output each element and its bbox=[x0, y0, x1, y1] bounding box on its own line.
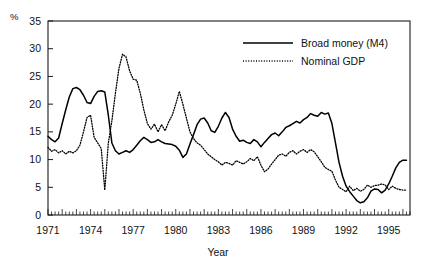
x-axis-minor-ticks bbox=[48, 209, 410, 215]
y-axis-unit-label: % bbox=[10, 11, 19, 22]
series-line-broad-money bbox=[48, 88, 406, 203]
x-tick-label: 1992 bbox=[334, 224, 358, 236]
y-axis-ticks: 05101520253035 bbox=[29, 15, 53, 221]
x-tick-label: 1989 bbox=[292, 224, 316, 236]
y-tick-label: 10 bbox=[29, 153, 41, 165]
x-tick-label: 1980 bbox=[164, 224, 188, 236]
series-line-nominal-gdp bbox=[48, 54, 406, 191]
chart-figure: 05101520253035 1971197419771980198319861… bbox=[0, 0, 429, 272]
x-tick-label: 1995 bbox=[377, 224, 401, 236]
x-tick-label: 1986 bbox=[249, 224, 273, 236]
legend-label-nominal-gdp: Nominal GDP bbox=[301, 55, 365, 67]
x-tick-label: 1983 bbox=[207, 224, 231, 236]
y-tick-label: 30 bbox=[29, 42, 41, 54]
x-tick-label: 1977 bbox=[121, 224, 145, 236]
y-tick-label: 20 bbox=[29, 98, 41, 110]
x-axis-title: Year bbox=[207, 246, 229, 258]
line-chart-canvas: 05101520253035 1971197419771980198319861… bbox=[0, 0, 429, 272]
y-tick-label: 0 bbox=[35, 209, 41, 221]
x-axis-tick-labels: 197119741977198019831986198919921995 bbox=[36, 224, 400, 236]
y-tick-label: 5 bbox=[35, 181, 41, 193]
y-tick-label: 15 bbox=[29, 125, 41, 137]
y-tick-label: 25 bbox=[29, 70, 41, 82]
x-tick-label: 1974 bbox=[79, 224, 103, 236]
x-tick-label: 1971 bbox=[36, 224, 60, 236]
y-tick-label: 35 bbox=[29, 15, 41, 27]
legend-label-broad-money: Broad money (M4) bbox=[301, 37, 388, 49]
chart-legend: Broad money (M4) Nominal GDP bbox=[243, 37, 388, 67]
